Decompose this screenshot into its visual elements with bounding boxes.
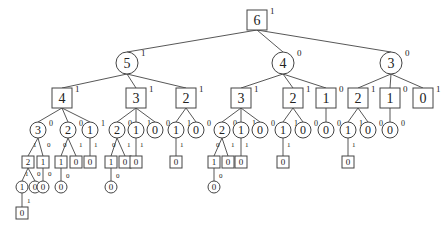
node-superscript: 1 [254,84,259,94]
node-superscript: 0 [297,48,302,58]
box-node-0: 0 [84,156,96,168]
circle-node-4: 40 [272,48,302,74]
edge-label: 1 [25,170,29,178]
tree-edge [222,138,228,156]
node-superscript: 1 [75,84,80,94]
node-value: 3 [238,91,245,106]
tree-edge [283,74,326,88]
edge-label: 0 [66,172,70,180]
box-node-2: 21 [283,84,311,108]
node-value: 0 [59,182,64,192]
node-value: 0 [300,123,306,137]
box-node-2: 2 [22,156,34,168]
node-value: 0 [88,157,93,167]
node-superscript: 1 [436,84,441,94]
tree-nodes: 6151403041312131211021100130201120110011… [16,6,441,219]
node-value: 1 [323,91,330,106]
tree-edge [68,138,76,156]
circle-node-1: 11 [82,119,105,138]
edge-label: 1 [245,141,249,149]
edge-label: 1 [27,197,31,205]
node-value: 1 [212,157,217,167]
node-value: 1 [345,123,351,137]
edge-label: 0 [47,141,51,149]
edge-labels: 100110111011111000001 [25,141,356,205]
node-value: 0 [123,157,128,167]
box-node-1: 10 [380,84,408,108]
node-value: 0 [174,157,179,167]
circle-node-1: 11 [275,119,298,138]
edge-label: 0 [116,172,120,180]
node-superscript: 1 [270,6,275,16]
box-node-0: 0 [235,156,247,168]
box-node-0: 0 [277,156,289,168]
tree-edge [176,108,186,122]
node-superscript: 0 [401,119,405,128]
edge-label: 1 [140,141,144,149]
circle-node-2: 20 [60,119,83,138]
node-value: 4 [280,56,287,71]
node-value: 2 [114,123,120,137]
node-value: 1 [173,123,179,137]
node-value: 2 [290,91,297,106]
node-value: 0 [387,123,393,137]
tree-edge [136,108,155,122]
box-node-0: 0 [130,156,142,168]
node-value: 0 [193,123,199,137]
edge-label: 1 [79,141,83,149]
circle-node-1: 11 [340,119,363,138]
node-value: 0 [134,157,139,167]
box-node-2: 21 [348,84,376,108]
node-value: 1 [387,91,394,106]
node-value: 0 [281,157,286,167]
box-node-1: 1 [208,156,220,168]
edge-label: 1 [94,141,98,149]
box-node-6: 61 [247,6,275,30]
node-value: 6 [254,13,261,28]
node-value: 0 [41,182,46,192]
edge-label: 0 [216,141,220,149]
tree-edge [127,30,257,52]
circle-node-1: 11 [168,119,191,138]
box-node-4: 41 [52,84,80,108]
edge-label: 0 [219,172,223,180]
node-superscript: 1 [149,84,154,94]
node-value: 4 [59,91,66,106]
circle-node-0: 00 [382,119,405,138]
node-superscript: 0 [49,119,53,128]
node-superscript: 1 [199,84,204,94]
box-node-0: 0 [70,156,82,168]
node-value: 0 [323,123,329,137]
node-value: 0 [109,182,114,192]
node-superscript: 0 [405,48,410,58]
circle-node-5: 51 [116,48,146,74]
tree-edge [348,108,358,122]
tree-edge [38,138,43,156]
node-value: 1 [238,123,244,137]
node-value: 0 [239,157,244,167]
node-superscript: 0 [403,84,408,94]
node-value: 3 [133,91,140,106]
node-value: 1 [133,123,139,137]
box-node-2: 21 [176,84,204,108]
circle-node-0: 0 [55,181,67,193]
tree-edge [62,74,127,88]
node-value: 3 [35,123,41,137]
node-value: 1 [87,123,93,137]
node-value: 2 [26,157,31,167]
node-superscript: 1 [306,84,311,94]
box-node-1: 1 [55,156,67,168]
box-node-3: 31 [126,84,154,108]
tree-edge [257,30,391,52]
edge-label: 1 [352,141,356,149]
node-value: 0 [226,157,231,167]
node-value: 1 [109,157,114,167]
edge-label: 0 [48,170,52,178]
node-superscript: 1 [371,84,376,94]
node-value: 0 [74,157,79,167]
tree-edge [127,74,186,88]
box-node-0: 0 [16,207,28,219]
circle-node-0: 0 [208,181,220,193]
node-value: 1 [59,157,64,167]
box-node-0: 0 [222,156,234,168]
